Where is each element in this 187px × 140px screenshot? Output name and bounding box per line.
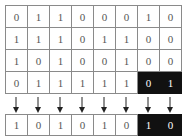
matrix-cell: 0 bbox=[160, 28, 182, 50]
down-arrow-icon bbox=[144, 97, 152, 114]
matrix-cell: 1 bbox=[6, 28, 28, 50]
matrix-cell: 0 bbox=[72, 6, 94, 28]
result-cell: 1 bbox=[50, 115, 72, 136]
matrix-cell: 0 bbox=[72, 28, 94, 50]
matrix-cell: 0 bbox=[94, 50, 116, 72]
result-cell: 1 bbox=[6, 115, 28, 136]
matrix-cell: 1 bbox=[94, 28, 116, 50]
matrix-row: 10100100 bbox=[6, 50, 182, 72]
result-cell: 0 bbox=[160, 115, 182, 136]
matrix-cell: 1 bbox=[50, 72, 72, 94]
down-arrow-icon bbox=[122, 97, 130, 114]
result-cell: 1 bbox=[94, 115, 116, 136]
matrix-cell: 0 bbox=[160, 6, 182, 28]
matrix-cell: 0 bbox=[94, 6, 116, 28]
matrix-cell: 1 bbox=[28, 28, 50, 50]
matrix-cell: 1 bbox=[116, 28, 138, 50]
matrix-cell: 0 bbox=[138, 50, 160, 72]
down-arrow-icon bbox=[56, 97, 64, 114]
matrix-cell: 1 bbox=[28, 6, 50, 28]
down-arrow-icon bbox=[34, 97, 42, 114]
result-cell: 0 bbox=[28, 115, 50, 136]
matrix-cell: 1 bbox=[6, 50, 28, 72]
matrix-row: 01100010 bbox=[6, 6, 182, 28]
down-arrow-icon bbox=[166, 97, 174, 114]
matrix-cell: 0 bbox=[72, 50, 94, 72]
down-arrow-icon bbox=[100, 97, 108, 114]
bit-matrix: 01100010111011001010010001111101 bbox=[5, 5, 182, 94]
down-arrow-icon bbox=[78, 97, 86, 114]
down-arrow-icon bbox=[12, 97, 20, 114]
matrix-cell: 0 bbox=[28, 50, 50, 72]
matrix-cell: 0 bbox=[138, 28, 160, 50]
matrix-cell: 1 bbox=[116, 72, 138, 94]
matrix-cell: 1 bbox=[160, 72, 182, 94]
down-arrows bbox=[5, 97, 182, 114]
matrix-cell: 0 bbox=[6, 6, 28, 28]
matrix-cell: 1 bbox=[72, 72, 94, 94]
result-row: 10101010 bbox=[5, 114, 182, 136]
matrix-cell: 1 bbox=[50, 50, 72, 72]
matrix-cell: 1 bbox=[138, 6, 160, 28]
matrix-cell: 1 bbox=[50, 6, 72, 28]
matrix-cell: 1 bbox=[50, 28, 72, 50]
matrix-cell: 0 bbox=[6, 72, 28, 94]
matrix-row: 01111101 bbox=[6, 72, 182, 94]
result-cell: 1 bbox=[138, 115, 160, 136]
matrix-cell: 1 bbox=[28, 72, 50, 94]
matrix-row: 11101100 bbox=[6, 28, 182, 50]
result-cell: 0 bbox=[72, 115, 94, 136]
matrix-cell: 1 bbox=[116, 50, 138, 72]
result-cell: 0 bbox=[116, 115, 138, 136]
matrix-cell: 1 bbox=[94, 72, 116, 94]
matrix-cell: 0 bbox=[160, 50, 182, 72]
matrix-cell: 0 bbox=[138, 72, 160, 94]
matrix-cell: 0 bbox=[116, 6, 138, 28]
